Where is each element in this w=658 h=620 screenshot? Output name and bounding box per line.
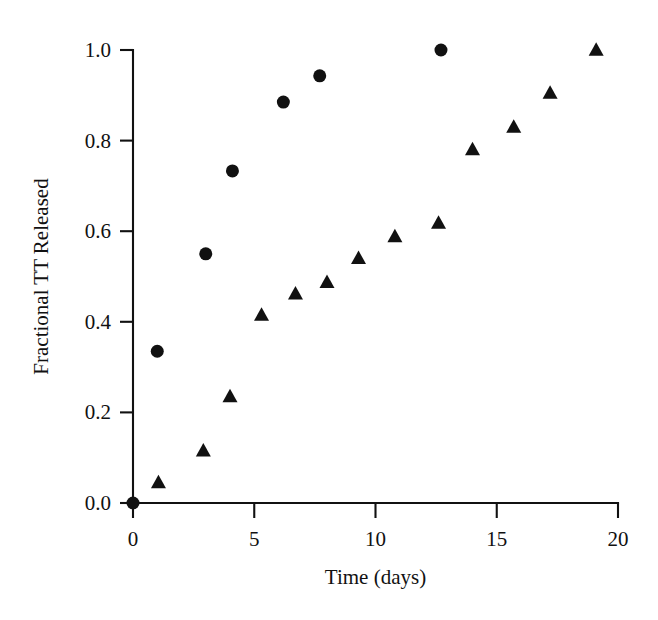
scatter-plot: 0.00.20.40.60.81.005101520 Time (days)Fr…	[0, 0, 658, 620]
data-point-circle	[277, 96, 290, 109]
data-point-triangle	[223, 389, 238, 403]
data-point-triangle	[543, 85, 558, 99]
data-point-triangle	[431, 215, 446, 229]
data-point-triangle	[254, 307, 269, 321]
data-point-triangle	[465, 142, 480, 156]
axis-tick-labels: 0.00.20.40.60.81.005101520	[85, 38, 629, 551]
y-tick-label: 0.6	[85, 219, 111, 243]
data-point-circle	[151, 345, 164, 358]
series-circles	[127, 44, 448, 510]
data-point-triangle	[589, 42, 604, 56]
series-triangles	[151, 42, 604, 488]
data-point-circle	[199, 247, 212, 260]
data-point-triangle	[506, 119, 521, 132]
y-tick-label: 1.0	[85, 38, 111, 62]
axes	[133, 50, 618, 503]
x-tick-label: 10	[365, 527, 386, 551]
axis-ticks	[120, 50, 618, 518]
data-point-circle	[226, 164, 239, 177]
x-tick-label: 0	[128, 527, 139, 551]
figure-container: 0.00.20.40.60.81.005101520 Time (days)Fr…	[0, 0, 658, 620]
data-point-triangle	[196, 443, 211, 457]
y-tick-label: 0.2	[85, 400, 111, 424]
x-tick-label: 5	[249, 527, 260, 551]
x-tick-label: 20	[608, 527, 629, 551]
data-point-circle	[313, 69, 326, 82]
data-point-triangle	[320, 275, 335, 289]
data-point-triangle	[151, 475, 166, 489]
y-tick-label: 0.8	[85, 129, 111, 153]
data-point-circle	[434, 44, 447, 57]
data-point-circle	[127, 497, 140, 510]
x-axis-title: Time (days)	[325, 565, 426, 589]
y-tick-label: 0.0	[85, 491, 111, 515]
data-point-triangle	[288, 286, 303, 300]
y-tick-label: 0.4	[85, 310, 112, 334]
x-tick-label: 15	[486, 527, 507, 551]
y-axis-title: Fractional TT Released	[29, 178, 53, 375]
data-point-triangle	[351, 251, 366, 264]
data-point-triangle	[387, 229, 402, 243]
data-markers	[127, 42, 604, 509]
